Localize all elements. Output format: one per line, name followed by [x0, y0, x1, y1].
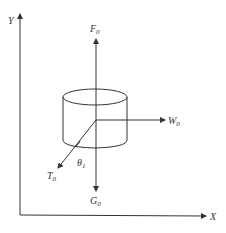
- force-diagram: Y X F0 G0 W0 T0 θ1: [0, 0, 226, 233]
- force-w0-label: W0: [168, 115, 180, 128]
- force-vectors: [58, 39, 165, 191]
- coordinate-axes: Y X: [8, 14, 217, 222]
- force-g0-label: G0: [90, 195, 101, 208]
- angle-theta1-label: θ1: [77, 157, 85, 170]
- cylinder-body: [63, 89, 127, 148]
- force-t0-label: T0: [47, 170, 57, 183]
- force-f0-label: F0: [89, 23, 100, 36]
- y-axis-label: Y: [8, 15, 15, 26]
- x-axis-label: X: [209, 211, 217, 222]
- x-axis: [20, 215, 206, 216]
